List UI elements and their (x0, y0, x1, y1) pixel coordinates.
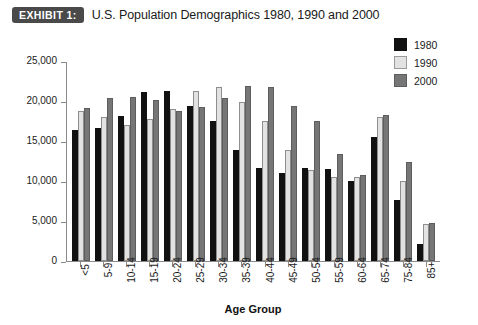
bar (360, 175, 366, 261)
x-axis-tick-label: 35-39 (241, 257, 252, 283)
bar-group (323, 62, 346, 261)
x-axis-tick-label: 40-44 (265, 257, 276, 283)
bar-group (254, 62, 277, 261)
bar-group (207, 62, 230, 261)
legend-swatch (394, 74, 407, 87)
x-axis-tick-label: 55-59 (334, 257, 345, 283)
legend-label: 1980 (414, 39, 437, 51)
x-axis-tick-label: 25-29 (195, 257, 206, 283)
legend-label: 2000 (414, 75, 437, 87)
y-axis-tick-label: 5,000 (32, 215, 57, 226)
x-axis-tick-label: 45-49 (288, 257, 299, 283)
bar-group (369, 62, 392, 261)
bar (406, 162, 412, 261)
bar (153, 100, 159, 261)
bar (291, 106, 297, 261)
bar (337, 154, 343, 261)
x-axis-tick-label: 75-84 (403, 257, 414, 283)
bar (199, 107, 205, 261)
y-axis-tick-label: 0 (51, 255, 57, 266)
bar (429, 223, 435, 261)
x-axis-tick-label: 85+ (426, 262, 437, 279)
bar-group (300, 62, 323, 261)
legend-swatch (394, 38, 407, 51)
bar-group (230, 62, 253, 261)
x-axis-tick-label: 30-34 (218, 257, 229, 283)
bar (268, 87, 274, 261)
page-title: U.S. Population Demographics 1980, 1990 … (92, 8, 380, 22)
bar (84, 108, 90, 261)
bar-group (115, 62, 138, 261)
bar-group (161, 62, 184, 261)
x-axis-tick-label: 50-54 (311, 257, 322, 283)
bar-group (69, 62, 92, 261)
y-axis-tick-label: 20,000 (26, 95, 57, 106)
bar (314, 121, 320, 261)
bar-group (346, 62, 369, 261)
x-axis-tick-label: <5 (80, 264, 91, 275)
legend-item: 1980 (394, 38, 472, 51)
legend-item: 2000 (394, 74, 472, 87)
legend-item: 1990 (394, 56, 472, 69)
bar-group (138, 62, 161, 261)
x-axis-tick-label: 5-9 (103, 263, 114, 277)
bar-group (277, 62, 300, 261)
chart-container: 05,00010,00015,00020,00025,000 <55-910-1… (0, 30, 478, 325)
x-axis-title: Age Group (66, 303, 440, 315)
exhibit-header: EXHIBIT 1: U.S. Population Demographics … (0, 0, 478, 30)
y-axis-tick-label: 10,000 (26, 175, 57, 186)
exhibit-badge: EXHIBIT 1: (12, 7, 84, 24)
x-axis-tick-label: 20-24 (172, 257, 183, 283)
bar (176, 111, 182, 261)
y-axis-tick-label: 25,000 (26, 55, 57, 66)
bar (383, 115, 389, 261)
bar (222, 98, 228, 261)
plot-area (66, 62, 440, 262)
bar-group (184, 62, 207, 261)
x-axis-tick-label: 60-64 (357, 257, 368, 283)
legend-label: 1990 (414, 57, 437, 69)
bar-group (92, 62, 115, 261)
y-axis-tick-label: 15,000 (26, 135, 57, 146)
legend-swatch (394, 56, 407, 69)
bar (130, 97, 136, 261)
bar-series-container (67, 62, 440, 261)
chart-legend: 198019902000 (394, 38, 472, 92)
x-axis-tick-label: 10-14 (126, 257, 137, 283)
exhibit-page: EXHIBIT 1: U.S. Population Demographics … (0, 0, 478, 325)
x-axis-tick-label: 65-74 (380, 257, 391, 283)
bar (245, 86, 251, 261)
x-axis-tick-label: 15-19 (149, 257, 160, 283)
bar (107, 98, 113, 261)
